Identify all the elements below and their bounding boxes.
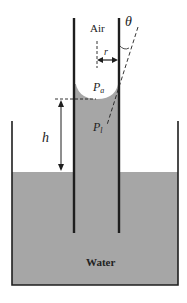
arrow-up-icon <box>58 100 64 107</box>
radius-label: r <box>104 46 108 57</box>
air-label: Air <box>90 22 105 34</box>
water-label: Water <box>86 256 115 268</box>
angle-arc <box>119 45 129 49</box>
theta-label: θ <box>125 14 132 29</box>
tube-water <box>75 84 119 233</box>
height-label: h <box>42 130 49 145</box>
arrow-down-icon <box>58 164 64 171</box>
capillary-diagram: Air θ r Pa Pl h Water <box>0 0 187 303</box>
